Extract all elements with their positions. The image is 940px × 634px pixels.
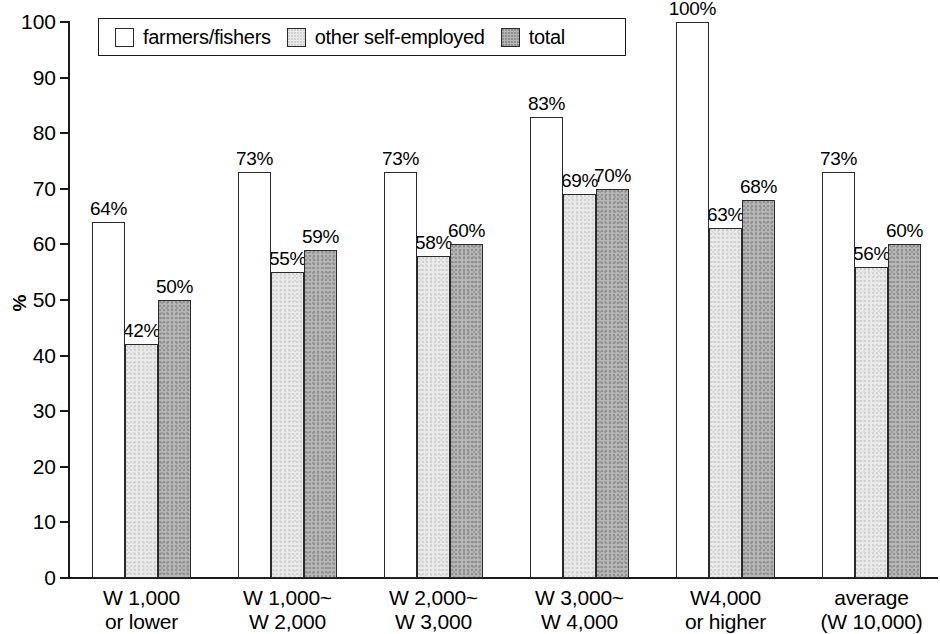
y-axis-tick-label: 60 xyxy=(0,233,56,254)
bar xyxy=(563,194,596,578)
bar xyxy=(238,172,271,578)
y-axis-tick-label: 90 xyxy=(0,67,56,88)
bar-value-label: 64% xyxy=(83,199,135,218)
bar-value-label: 73% xyxy=(375,149,427,168)
bar xyxy=(384,172,417,578)
bar xyxy=(596,189,629,578)
y-axis-tick xyxy=(60,410,69,412)
y-axis-tick xyxy=(60,466,69,468)
x-axis-category-label: W 1,000~ W 2,000 xyxy=(213,586,363,634)
y-axis-tick-label: 80 xyxy=(0,122,56,143)
legend-swatch-icon xyxy=(115,28,134,47)
y-axis-tick xyxy=(60,188,69,190)
y-axis-tick xyxy=(60,132,69,134)
y-axis-tick xyxy=(60,521,69,523)
legend-swatch-icon xyxy=(287,28,306,47)
bar-value-label: 60% xyxy=(441,221,493,240)
chart-legend: farmers/fishersother self-employedtotal xyxy=(98,18,626,56)
bar-value-label: 68% xyxy=(733,177,785,196)
y-axis-tick-label: 0 xyxy=(0,567,56,588)
y-axis-tick-label: 30 xyxy=(0,400,56,421)
bar-value-label: 73% xyxy=(229,149,281,168)
bar xyxy=(676,22,709,578)
bar-value-label: 60% xyxy=(879,221,931,240)
legend-item[interactable]: farmers/fishers xyxy=(115,27,271,47)
bar xyxy=(92,222,125,578)
bar xyxy=(158,300,191,578)
bar xyxy=(822,172,855,578)
plot-area: 64%42%50%73%55%59%73%58%60%83%69%70%100%… xyxy=(69,22,938,578)
y-axis-tick-label: 10 xyxy=(0,511,56,532)
y-axis-tick-label: 40 xyxy=(0,345,56,366)
x-axis-category-label: W4,000 or higher xyxy=(651,586,801,634)
y-axis-tick xyxy=(60,21,69,23)
bar-chart: % 1009080706050403020100 64%42%50%73%55%… xyxy=(0,0,940,634)
y-axis-tick-label: 20 xyxy=(0,456,56,477)
bar xyxy=(417,256,450,578)
bar-value-label: 73% xyxy=(813,149,865,168)
bar-value-label: 83% xyxy=(521,94,573,113)
y-axis-tick xyxy=(60,299,69,301)
y-axis-tick xyxy=(60,577,69,579)
bar xyxy=(742,200,775,578)
bar-value-label: 59% xyxy=(295,227,347,246)
legend-item-label: total xyxy=(529,27,565,47)
bar-value-label: 70% xyxy=(587,166,639,185)
legend-item[interactable]: other self-employed xyxy=(287,27,485,47)
bar-value-label: 50% xyxy=(149,277,201,296)
bar xyxy=(271,272,304,578)
x-axis-category-label: W 3,000~ W 4,000 xyxy=(505,586,655,634)
bar xyxy=(530,117,563,578)
y-axis-tick xyxy=(60,77,69,79)
x-axis-category-label: W 1,000 or lower xyxy=(67,586,217,634)
bar xyxy=(304,250,337,578)
legend-item-label: farmers/fishers xyxy=(143,27,271,47)
bar-value-label: 100% xyxy=(667,0,719,18)
y-axis-tick-label: 100 xyxy=(0,11,56,32)
y-axis-tick xyxy=(60,355,69,357)
y-axis-tick-label: 70 xyxy=(0,178,56,199)
legend-swatch-icon xyxy=(501,28,520,47)
bar xyxy=(709,228,742,578)
x-axis-category-label: average (W 10,000) xyxy=(797,586,940,634)
bar xyxy=(450,244,483,578)
bar xyxy=(125,344,158,578)
bar xyxy=(855,267,888,578)
y-axis-tick-label: 50 xyxy=(0,289,56,310)
y-axis-tick xyxy=(60,243,69,245)
x-axis-category-label: W 2,000~ W 3,000 xyxy=(359,586,509,634)
legend-item-label: other self-employed xyxy=(315,27,485,47)
legend-item[interactable]: total xyxy=(501,27,565,47)
bar xyxy=(888,244,921,578)
